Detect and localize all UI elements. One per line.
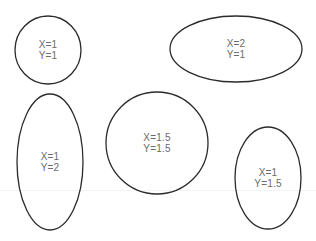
x-value: X=1.5 — [143, 132, 170, 143]
y-value: Y=1.5 — [254, 178, 281, 189]
x-value: X=1 — [254, 167, 281, 178]
x-value: X=1 — [39, 39, 58, 50]
y-value: Y=1 — [227, 49, 246, 60]
ellipse-3-label: X=1 Y=2 — [41, 151, 60, 173]
ellipses-svg — [0, 0, 316, 241]
y-value: Y=1.5 — [143, 143, 170, 154]
ellipse-5-label: X=1 Y=1.5 — [254, 167, 281, 189]
diagram-canvas: X=1 Y=1 X=2 Y=1 X=1 Y=2 X=1.5 Y=1.5 X=1 … — [0, 0, 316, 241]
ellipse-2-label: X=2 Y=1 — [227, 38, 246, 60]
ellipse-4-label: X=1.5 Y=1.5 — [143, 132, 170, 154]
x-value: X=1 — [41, 151, 60, 162]
ellipse-1-label: X=1 Y=1 — [39, 39, 58, 61]
x-value: X=2 — [227, 38, 246, 49]
y-value: Y=1 — [39, 50, 58, 61]
y-value: Y=2 — [41, 162, 60, 173]
